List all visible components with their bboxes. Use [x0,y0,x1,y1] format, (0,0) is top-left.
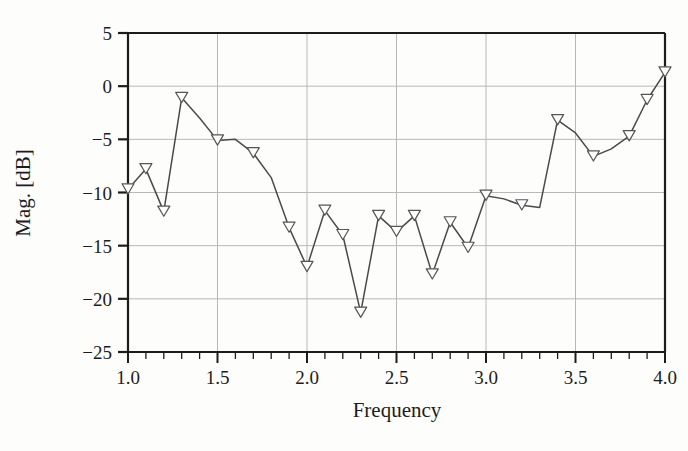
x-tick-label: 4.0 [653,367,677,388]
y-axis-title: Mag. [dB] [11,149,35,237]
y-tick-label: 0 [103,76,113,97]
y-tick-label: −15 [82,236,112,257]
y-tick-label: 5 [103,23,113,44]
x-axis-title: Frequency [353,398,442,422]
magnitude-vs-frequency-chart: 1.01.52.02.53.03.54.0 50−5−10−15−20−25 F… [0,0,688,451]
chart-figure: 1.01.52.02.53.03.54.0 50−5−10−15−20−25 F… [0,0,688,451]
y-tick-label: −5 [92,129,112,150]
x-tick-label: 2.5 [385,367,409,388]
y-tick-label: −20 [82,289,112,310]
x-tick-label: 1.0 [116,367,140,388]
y-tick-label: −25 [82,342,112,363]
x-tick-label: 2.0 [295,367,319,388]
x-tick-label: 3.5 [564,367,588,388]
y-tick-label: −10 [82,183,112,204]
x-tick-label: 3.0 [474,367,498,388]
x-tick-label: 1.5 [206,367,230,388]
